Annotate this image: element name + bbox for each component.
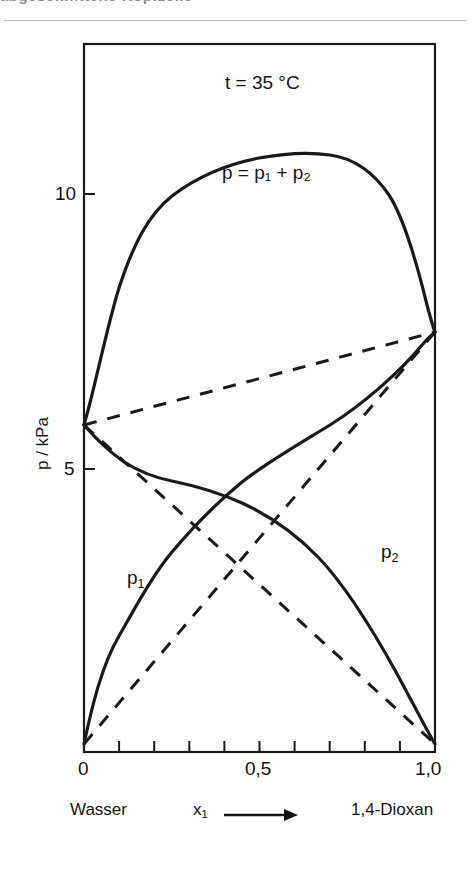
curve-label-p1-text: p <box>127 567 138 588</box>
curve-label-p1: p1 <box>127 567 145 591</box>
y-axis-title: p / kPa <box>33 417 53 470</box>
x-tick-label-1-0: 1,0 <box>415 758 441 780</box>
y-tick-label-5: 5 <box>64 458 75 480</box>
henry-tangent-x0 <box>84 332 435 425</box>
x-tick-marks <box>119 741 400 752</box>
x-axis-direction-arrow-icon <box>222 805 302 825</box>
chart-canvas <box>0 0 475 869</box>
curve-label-p2-text: p <box>381 541 392 562</box>
dashed-reference-lines <box>84 332 435 744</box>
vapour-pressure-figure: abgeschnittene Kopfzeile <box>0 0 475 869</box>
x-axis-left-component: Wasser <box>70 800 127 820</box>
temperature-condition-label: t = 35 °C <box>225 72 300 94</box>
y-tick-label-10: 10 <box>55 183 76 205</box>
raoult-line-p1 <box>84 332 435 744</box>
x-tick-label-0: 0 <box>78 758 89 780</box>
x-axis-variable-symbol: x <box>193 800 202 819</box>
curve-label-p1-subscript: 1 <box>138 577 145 591</box>
x-axis-right-component: 1,4-Dioxan <box>351 800 433 820</box>
curve-label-p2-subscript: 2 <box>392 551 399 565</box>
x-axis-variable-subscript: 1 <box>202 808 208 820</box>
curve-label-total-text: p = p₁ + p₂ <box>222 162 311 183</box>
x-tick-label-0-5: 0,5 <box>245 758 271 780</box>
x-axis-variable: x1 <box>193 800 208 820</box>
curve-label-p2: p2 <box>381 541 399 565</box>
curve-label-total: p = p₁ + p₂ <box>222 162 311 184</box>
